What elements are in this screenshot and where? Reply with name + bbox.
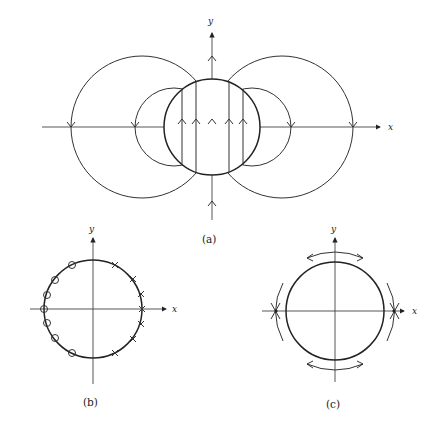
caption-b: (b) (83, 396, 98, 408)
x-axis-label: x (388, 122, 393, 132)
arrowhead-icon (357, 361, 363, 368)
panel-b: x y (b) (30, 224, 177, 408)
caption-a: (a) (202, 233, 216, 245)
fixed-point (274, 309, 277, 312)
y-axis-label: y (330, 224, 337, 234)
x-axis-label: x (172, 304, 177, 314)
arrowhead-icon (307, 254, 313, 261)
arrowhead-icon (307, 361, 313, 368)
y-axis-label: y (88, 224, 95, 234)
panel-a: x y (42, 16, 393, 245)
fixed-point (392, 309, 395, 312)
y-axis-label: y (207, 16, 214, 26)
figure: x y (0, 0, 442, 427)
arrowhead-icon (357, 254, 363, 261)
caption-c: (c) (326, 398, 340, 410)
x-axis-label: x (412, 306, 417, 316)
panel-c: x y (c) (262, 224, 417, 410)
